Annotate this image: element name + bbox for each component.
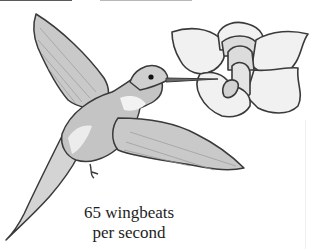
caption-line-1: 65 wingbeats bbox=[62, 203, 196, 223]
flower-icon bbox=[172, 22, 308, 116]
foot-icon bbox=[90, 164, 98, 178]
caption-line-2: per second bbox=[62, 223, 196, 243]
figure-caption: 65 wingbeats per second bbox=[62, 203, 196, 243]
divider bbox=[305, 120, 306, 249]
eye-icon bbox=[148, 74, 153, 79]
figure: 65 wingbeats per second bbox=[0, 0, 318, 249]
